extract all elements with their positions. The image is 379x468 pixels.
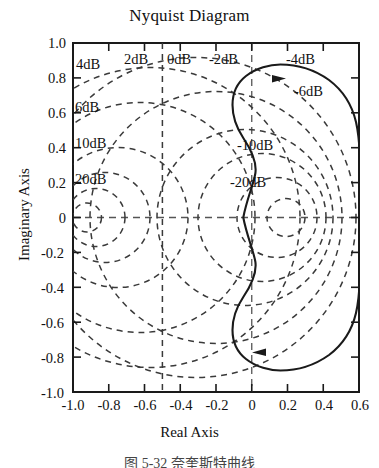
contour-label-m6db: -6dB	[294, 84, 323, 98]
x-tick-label: 0.4	[305, 398, 343, 412]
contour-label-m10db: -10dB	[237, 138, 273, 152]
y-tick-label: 0.6	[6, 106, 66, 120]
x-tick-label: 0	[238, 398, 266, 412]
contour-label-6db: 6dB	[75, 100, 99, 114]
figure-caption: 图 5-32 奈奎斯特曲线	[0, 452, 379, 468]
contour-label-m20db: -20dB	[230, 175, 266, 189]
contour-4db	[48, 148, 188, 288]
x-tick-label: 0.2	[269, 398, 307, 412]
y-tick-label: 0	[6, 211, 66, 225]
x-tick-label: -0.2	[197, 398, 237, 412]
direction-arrow-lower	[252, 349, 266, 357]
contour-label-2db: 2dB	[124, 52, 148, 66]
y-tick-label: 1.0	[6, 36, 66, 50]
x-tick-label: -0.4	[161, 398, 201, 412]
y-tick-label: -0.4	[4, 281, 64, 295]
contour-label-10db: 10dB	[75, 136, 106, 150]
y-tick-label: -0.6	[4, 316, 64, 330]
y-tick-label: 0.2	[6, 176, 66, 190]
contour-label-m4db: -4dB	[286, 52, 315, 66]
contour-label-0db: 0dB	[167, 52, 191, 66]
contour-label-4db: 4dB	[76, 57, 100, 71]
nyquist-figure: Nyquist Diagram Imaginary Axis Real Axis	[0, 0, 379, 468]
y-tick-label: -0.2	[4, 246, 64, 260]
y-tick-label: -0.8	[4, 351, 64, 365]
x-tick-label: 0.6	[341, 398, 379, 412]
contour-label-m2db: -2dB	[209, 52, 238, 66]
x-tick-label: -1.0	[53, 398, 93, 412]
x-tick-label: -0.6	[125, 398, 165, 412]
contour-label-20db: 20dB	[75, 172, 106, 186]
y-tick-label: 0.8	[6, 71, 66, 85]
x-tick-label: -0.8	[89, 398, 129, 412]
y-tick-label: 0.4	[6, 141, 66, 155]
